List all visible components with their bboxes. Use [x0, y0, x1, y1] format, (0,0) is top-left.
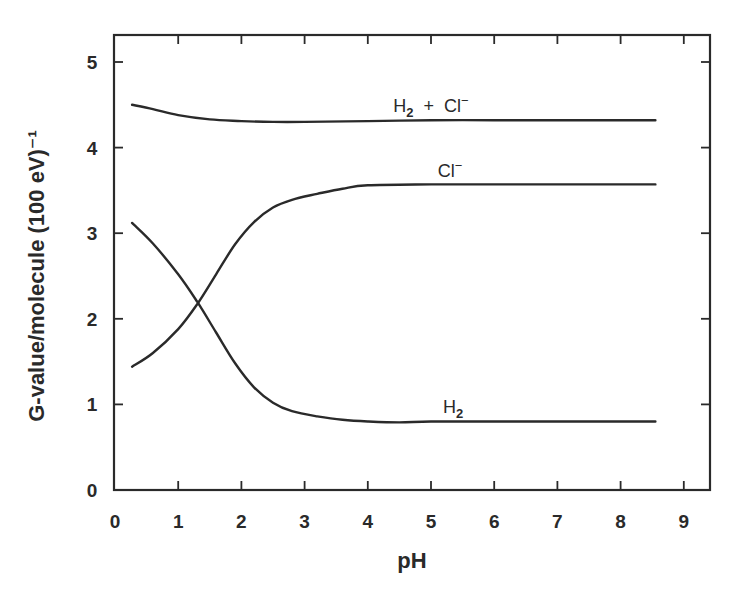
- curve-labels: H2 + Cl−Cl−H2: [393, 93, 468, 421]
- curve-label-cl: Cl−: [438, 158, 463, 181]
- x-tick-label: 2: [236, 511, 247, 532]
- y-tick-label: 0: [87, 480, 98, 501]
- x-tick-label: 3: [299, 511, 310, 532]
- y-tick-label: 5: [87, 52, 98, 73]
- curve-h2: [132, 223, 655, 423]
- y-tick-label: 1: [87, 394, 98, 415]
- x-tick-label: 9: [679, 511, 690, 532]
- chart: 0123456789012345 H2 + Cl−Cl−H2 pH G-valu…: [0, 0, 737, 611]
- y-tick-label: 4: [87, 138, 98, 159]
- x-tick-label: 7: [552, 511, 563, 532]
- curve-cl: [132, 184, 655, 366]
- x-tick-label: 8: [615, 511, 626, 532]
- x-tick-label: 6: [489, 511, 500, 532]
- data-curves: [132, 105, 655, 423]
- tick-labels: 0123456789012345: [87, 52, 689, 532]
- curve-label-h2: H2: [443, 397, 463, 421]
- x-tick-label: 1: [173, 511, 184, 532]
- x-tick-label: 4: [363, 511, 374, 532]
- y-tick-label: 3: [87, 223, 98, 244]
- curve-label-h2-cl: H2 + Cl−: [393, 93, 468, 120]
- y-axis-title: G-value/molecule (100 eV)⁻¹: [24, 130, 49, 422]
- x-tick-label: 0: [110, 511, 121, 532]
- x-tick-label: 5: [426, 511, 437, 532]
- x-axis-title: pH: [397, 548, 426, 573]
- y-tick-label: 2: [87, 309, 98, 330]
